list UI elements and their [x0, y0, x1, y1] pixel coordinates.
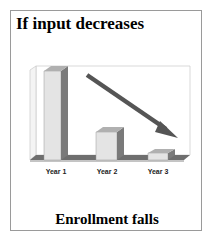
bar-year-2 [96, 127, 124, 160]
slide-caption: Enrollment falls [0, 211, 214, 228]
bar-year-1 [44, 66, 68, 160]
bar-chart [0, 0, 214, 242]
x-tick-year-3: Year 3 [138, 168, 178, 175]
x-tick-year-1: Year 1 [36, 168, 76, 175]
x-tick-year-2: Year 2 [87, 168, 127, 175]
